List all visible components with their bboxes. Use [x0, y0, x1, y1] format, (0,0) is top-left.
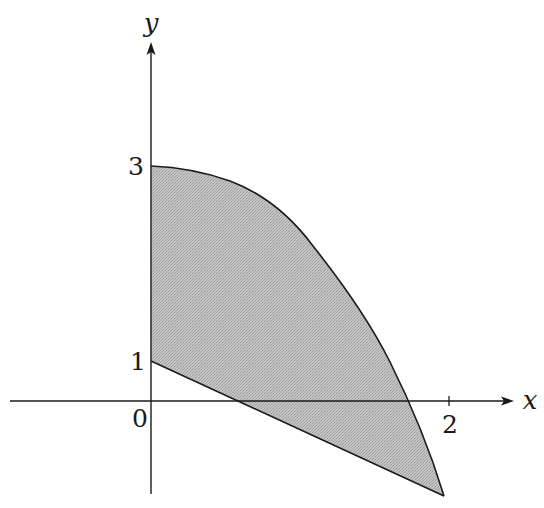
x-tick-label-2: 2	[442, 410, 458, 439]
origin-label: 0	[132, 404, 148, 433]
y-tick-label-3: 3	[128, 152, 144, 181]
shaded-region	[151, 166, 444, 496]
x-axis-label: x	[523, 385, 538, 415]
y-tick-label-1: 1	[130, 347, 146, 376]
y-axis-label: y	[143, 8, 159, 38]
region-diagram: y x 0 3 1 2	[0, 0, 544, 508]
